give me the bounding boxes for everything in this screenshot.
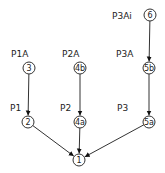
edge-4a-to-1	[79, 128, 80, 154]
node-label: 4b	[75, 64, 85, 73]
node-label: 2	[25, 118, 30, 127]
node-label: 1	[76, 156, 81, 165]
level-label-p3a: P3A	[116, 49, 134, 59]
edge-2-to-1	[33, 126, 74, 157]
tree-diagram: 124a5a34b5b6 P3AiP1AP2AP3AP1P2P3	[0, 0, 165, 173]
node-1: 1	[73, 154, 85, 166]
edge-5a-to-1	[85, 125, 144, 157]
node-label: 5b	[144, 64, 154, 73]
edge-3-to-2	[28, 74, 29, 116]
node-6: 6	[144, 9, 156, 21]
level-label-p3ai: P3Ai	[112, 11, 132, 21]
node-5a: 5a	[143, 116, 155, 128]
level-label-p3: P3	[117, 103, 128, 113]
node-2: 2	[22, 116, 34, 128]
node-4b: 4b	[74, 62, 86, 74]
node-5b: 5b	[143, 62, 155, 74]
edges	[28, 21, 150, 157]
node-label: 5a	[144, 118, 154, 127]
level-label-p2: P2	[60, 103, 71, 113]
level-label-p2a: P2A	[62, 49, 80, 59]
node-label: 4a	[75, 118, 85, 127]
node-3: 3	[23, 62, 35, 74]
level-label-p1: P1	[10, 103, 21, 113]
nodes: 124a5a34b5b6	[22, 9, 156, 166]
node-4a: 4a	[74, 116, 86, 128]
node-label: 3	[26, 64, 31, 73]
level-label-p1a: P1A	[11, 49, 29, 59]
node-label: 6	[147, 11, 152, 20]
edge-6-to-5b	[149, 21, 150, 62]
